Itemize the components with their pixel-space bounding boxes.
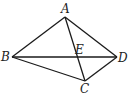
segment-AD bbox=[65, 17, 117, 57]
geometry-diagram: A B C D E bbox=[0, 0, 135, 96]
label-C: C bbox=[80, 82, 89, 96]
segment-BC bbox=[12, 57, 85, 81]
label-D: D bbox=[117, 51, 128, 65]
segment-CD bbox=[85, 57, 117, 81]
label-B: B bbox=[0, 50, 10, 64]
segment-AB bbox=[12, 17, 65, 57]
label-E: E bbox=[74, 43, 84, 57]
label-A: A bbox=[60, 2, 70, 16]
